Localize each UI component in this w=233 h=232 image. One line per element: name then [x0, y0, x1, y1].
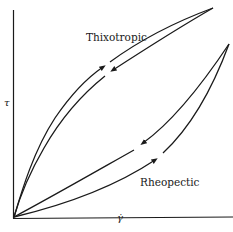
x-axis-label-shear-rate: γ̇	[117, 213, 123, 223]
rheopectic-up-branch-lower	[14, 160, 155, 217]
rheology-diagram: Thixotropic Rheopectic τ γ̇	[0, 0, 233, 232]
y-axis-label-tau: τ	[4, 98, 10, 108]
rheopectic-label: Rheopectic	[140, 177, 199, 188]
rheopectic-loop	[14, 44, 229, 217]
thixotropic-label: Thixotropic	[86, 32, 147, 43]
rheopectic-down-branch-lower	[14, 150, 134, 217]
rheopectic-up-branch-upper	[163, 44, 229, 153]
thixotropic-down-branch-lower	[14, 76, 105, 217]
x-axis	[13, 217, 233, 219]
